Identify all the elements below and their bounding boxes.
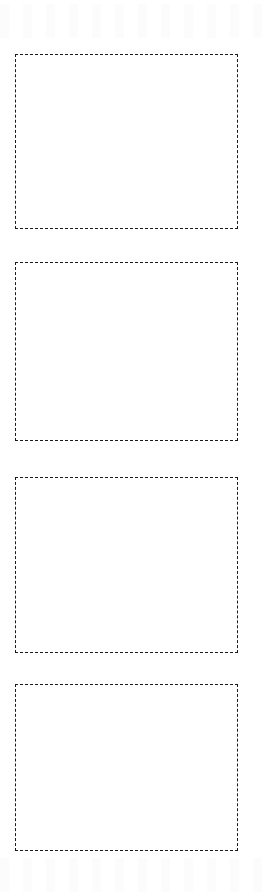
- placeholder-box-4-content: [16, 685, 237, 850]
- placeholder-box-1-content: [16, 55, 237, 228]
- placeholder-box-2[interactable]: [15, 262, 238, 441]
- placeholder-box-2-content: [16, 263, 237, 440]
- placeholder-box-4[interactable]: [15, 684, 238, 851]
- placeholder-box-1[interactable]: [15, 54, 238, 229]
- placeholder-box-3-content: [16, 478, 237, 652]
- placeholder-box-3[interactable]: [15, 477, 238, 653]
- scan-noise-top: [0, 4, 263, 38]
- page-root: [0, 0, 263, 895]
- scan-noise-bottom: [0, 858, 263, 892]
